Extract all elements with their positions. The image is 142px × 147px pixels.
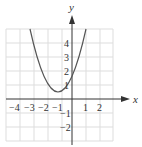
y-axis-label: y: [68, 1, 74, 13]
x-tick: −3: [24, 102, 35, 113]
parabola-chart: x y −4 −3 −2 −1 1 2 4 3 2 1 −1 −2: [0, 0, 142, 147]
y-tick: 3: [64, 52, 69, 63]
parabola-curve: [30, 29, 86, 92]
y-tick: 4: [64, 38, 69, 49]
x-tick: −2: [38, 102, 49, 113]
x-tick: −4: [9, 102, 20, 113]
x-axis-arrow-icon: [121, 96, 130, 102]
y-tick: −2: [60, 122, 71, 133]
x-axis-label: x: [132, 93, 138, 105]
x-tick: 1: [83, 102, 88, 113]
x-tick: 2: [97, 102, 102, 113]
y-axis-arrow-icon: [69, 15, 75, 24]
y-tick: 2: [64, 66, 69, 77]
x-tick-labels: −4 −3 −2 −1 1 2: [9, 102, 102, 113]
y-tick: 1: [64, 80, 69, 91]
y-tick: −1: [60, 108, 71, 119]
